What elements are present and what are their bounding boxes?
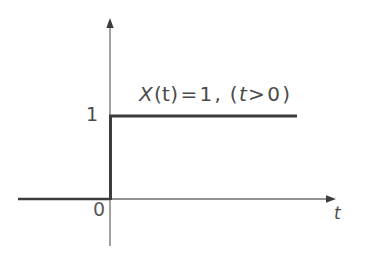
x-axis-label-t: t	[334, 205, 341, 222]
equation-condition-close-paren: )	[281, 82, 291, 106]
y-axis-arrow-icon	[106, 18, 113, 28]
equation-comma: ,	[213, 82, 222, 106]
plot-canvas	[0, 0, 371, 262]
x-axis-arrow-icon	[326, 195, 336, 203]
function-equation-annotation: X(t)=1, (t>0)	[139, 84, 291, 104]
equation-function-name: X	[139, 82, 153, 106]
unit-step-function-figure: 1 0 t X(t)=1, (t>0)	[0, 0, 371, 262]
origin-label-zero: 0	[93, 200, 105, 219]
equation-condition-operator: >	[247, 82, 266, 106]
equation-value: 1	[198, 82, 213, 106]
equation-condition-variable: t	[239, 82, 247, 106]
y-tick-label-one: 1	[86, 105, 98, 124]
equation-condition-open-paren: (	[229, 82, 239, 106]
equation-argument: (t)	[153, 82, 179, 106]
equation-condition-value: 0	[266, 82, 281, 106]
equation-equals-sign: =	[179, 82, 198, 106]
